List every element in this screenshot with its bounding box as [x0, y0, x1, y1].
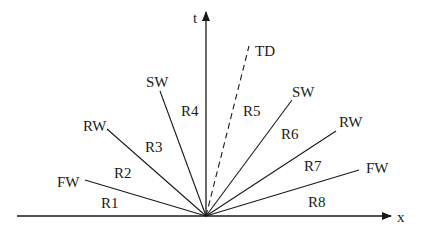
fw-right-line [206, 170, 359, 216]
region-label-r4: R4 [181, 103, 199, 119]
td-line [206, 46, 249, 216]
sw-left-label: SW [146, 74, 169, 90]
x-axis-label: x [397, 209, 405, 225]
wave-lines [85, 46, 359, 216]
td-label: TD [255, 43, 275, 59]
fw-left-label: FW [57, 174, 80, 190]
wave-labels: FWRWSWTDSWRWFW [57, 43, 389, 190]
region-label-r1: R1 [101, 195, 119, 211]
wave-fan-diagram: xt FWRWSWTDSWRWFW R1R2R3R4R5R6R7R8 [0, 0, 421, 235]
region-label-r2: R2 [114, 165, 132, 181]
rw-right-label: RW [339, 114, 363, 130]
sw-right-label: SW [292, 84, 315, 100]
fw-right-label: FW [366, 160, 389, 176]
region-label-r5: R5 [243, 103, 261, 119]
t-axis-label: t [193, 10, 198, 26]
region-label-r3: R3 [145, 139, 163, 155]
region-label-r7: R7 [304, 158, 322, 174]
region-label-r8: R8 [308, 194, 326, 210]
rw-left-label: RW [83, 118, 107, 134]
region-label-r6: R6 [281, 126, 299, 142]
